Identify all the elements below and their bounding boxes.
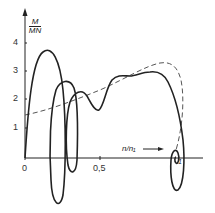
x-tick-label-0: 0 (22, 164, 27, 173)
y-tick-label-3: 3 (13, 66, 18, 75)
dashed-curve (25, 63, 183, 150)
x-label-arrow-icon (158, 147, 164, 151)
x-axis-label: n/n₁ (122, 144, 136, 153)
y-axis-label-den: MN (29, 26, 41, 35)
solid-curve (25, 50, 184, 203)
y-tick-label-4: 4 (13, 38, 18, 47)
y-axis-label: M MN (28, 18, 42, 35)
y-axis-label-num: M (32, 17, 39, 26)
y-tick-label-1: 1 (13, 123, 18, 132)
loop-end-label: 1 (178, 158, 182, 165)
y-axis-arrow-icon (23, 8, 28, 16)
y-tick-label-2: 2 (13, 94, 18, 103)
x-tick-label-05: 0,5 (93, 164, 106, 173)
